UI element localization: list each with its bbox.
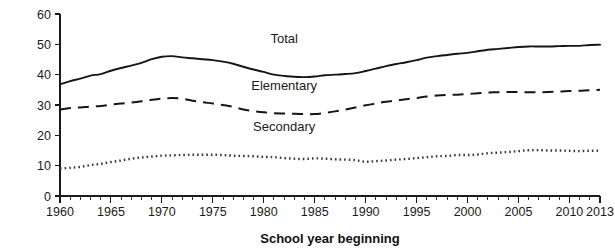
- series-label-secondary: Secondary: [253, 119, 316, 134]
- y-tick-label: 10: [37, 159, 51, 173]
- y-tick-label: 30: [37, 99, 51, 113]
- x-tick-label: 2010: [556, 205, 584, 219]
- x-tick-label: 2013: [586, 205, 614, 219]
- x-tick-label: 1980: [250, 205, 278, 219]
- x-tick-label: 1965: [97, 205, 125, 219]
- series-line-secondary: [60, 150, 600, 169]
- x-tick-label: 2000: [454, 205, 482, 219]
- series-label-elementary: Elementary: [251, 78, 317, 93]
- x-tick-label: 1990: [352, 205, 380, 219]
- x-tick-label: 2005: [505, 205, 533, 219]
- chart-canvas: 0102030405060 19601965197019751980198519…: [0, 0, 615, 251]
- x-tick-label: 1995: [403, 205, 431, 219]
- x-tick-label: 1985: [301, 205, 329, 219]
- series-group: [60, 45, 600, 169]
- x-tick-label: 1975: [199, 205, 227, 219]
- x-tick-group: [60, 196, 600, 203]
- x-tick-label-group: 1960196519701975198019851990199520002005…: [46, 205, 614, 219]
- line-chart: 0102030405060 19601965197019751980198519…: [0, 0, 615, 251]
- y-tick-label: 40: [37, 68, 51, 82]
- y-tick-label: 60: [37, 8, 51, 22]
- y-tick-label: 20: [37, 129, 51, 143]
- y-axis: 0102030405060: [37, 8, 60, 204]
- x-axis: 1960196519701975198019851990199520002005…: [46, 196, 614, 219]
- series-annotation-group: TotalElementarySecondary: [251, 31, 317, 134]
- series-label-total: Total: [270, 31, 298, 46]
- y-tick-label: 0: [44, 190, 51, 204]
- series-line-elementary: [60, 90, 600, 114]
- x-tick-label: 1960: [46, 205, 74, 219]
- x-axis-title: School year beginning: [260, 231, 399, 246]
- y-tick-label-group: 0102030405060: [37, 8, 51, 204]
- y-tick-label: 50: [37, 38, 51, 52]
- x-tick-label: 1970: [148, 205, 176, 219]
- series-line-total: [60, 45, 600, 85]
